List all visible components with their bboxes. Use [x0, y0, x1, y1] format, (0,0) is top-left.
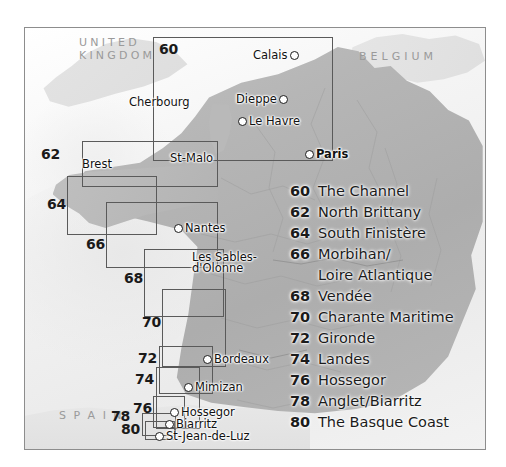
index-number-74: 74 [135, 372, 154, 386]
index-number-68: 68 [124, 271, 143, 285]
city-mimizan[interactable]: Mimizan [184, 379, 243, 395]
legend-number-76: 76 [290, 370, 318, 391]
index-number-62: 62 [41, 147, 60, 161]
city-dot-paris [305, 150, 314, 159]
city-label-calais: Calais [253, 48, 288, 62]
city-dot-calais [290, 51, 299, 60]
legend-row-72[interactable]: 72 Gironde [290, 328, 480, 349]
index-number-70: 70 [142, 315, 161, 329]
index-number-64: 64 [47, 197, 66, 211]
legend-label-70: Charante Maritime [318, 307, 454, 328]
legend-row-80[interactable]: 80 The Basque Coast [290, 412, 480, 433]
city-st-malo[interactable]: St-Malo [170, 150, 213, 166]
legend-number-74: 74 [290, 349, 318, 370]
index-number-80: 80 [121, 422, 140, 436]
city-dot-bordeaux [203, 355, 212, 364]
legend-number-78: 78 [290, 391, 318, 412]
city-label-bordeaux: Bordeaux [214, 352, 269, 366]
legend-row-70[interactable]: 70 Charante Maritime [290, 307, 480, 328]
legend-number-60: 60 [290, 181, 318, 202]
legend-row-68[interactable]: 68 Vendée [290, 286, 480, 307]
city-les-sables-dolonne[interactable]: Les Sables- d'Olonne [192, 252, 257, 274]
city-label-mimizan: Mimizan [195, 380, 243, 394]
legend-number-72: 72 [290, 328, 318, 349]
index-number-60: 60 [159, 42, 178, 56]
legend-label-72: Gironde [318, 328, 375, 349]
legend-row-64[interactable]: 64 South Finistère [290, 223, 480, 244]
city-label-nantes: Nantes [185, 221, 226, 235]
legend-row-62[interactable]: 62 North Brittany [290, 202, 480, 223]
legend-row-60[interactable]: 60 The Channel [290, 181, 480, 202]
city-label-les-sables-dolonne: Les Sables- d'Olonne [192, 252, 257, 274]
city-nantes[interactable]: Nantes [174, 220, 226, 236]
city-calais[interactable]: Calais [253, 47, 299, 63]
legend-row-66[interactable]: 66 Morbihan/ Loire Atlantique [290, 244, 480, 286]
city-dot-dieppe [279, 95, 288, 104]
legend-number-64: 64 [290, 223, 318, 244]
legend-number-66: 66 [290, 244, 318, 265]
legend-label-62: North Brittany [318, 202, 421, 223]
legend-row-74[interactable]: 74 Landes [290, 349, 480, 370]
city-st-jean-de-luz[interactable]: St-Jean-de-Luz [155, 428, 250, 444]
legend-label-78: Anglet/Biarritz [318, 391, 422, 412]
city-dieppe[interactable]: Dieppe [236, 91, 288, 107]
legend-number-80: 80 [290, 412, 318, 433]
index-number-76: 76 [133, 401, 152, 415]
city-dot-mimizan [184, 383, 193, 392]
country-label-belgium: BELGIUM [359, 50, 437, 63]
legend-row-78[interactable]: 78 Anglet/Biarritz [290, 391, 480, 412]
city-bordeaux[interactable]: Bordeaux [203, 351, 269, 367]
city-label-st-jean-de-luz: St-Jean-de-Luz [166, 429, 250, 443]
city-label-le-havre: Le Havre [249, 114, 300, 128]
legend-label-76: Hossegor [318, 370, 386, 391]
legend-label-60: The Channel [318, 181, 409, 202]
legend-label-74: Landes [318, 349, 370, 370]
chart-index-legend: 60 The Channel 62 North Brittany 64 Sout… [290, 181, 480, 433]
city-le-havre[interactable]: Le Havre [238, 113, 300, 129]
legend-label-80: The Basque Coast [318, 412, 449, 433]
legend-label-64: South Finistère [318, 223, 426, 244]
index-number-72: 72 [138, 351, 157, 365]
legend-number-70: 70 [290, 307, 318, 328]
city-label-st-malo: St-Malo [170, 151, 213, 165]
city-label-cherbourg: Cherbourg [129, 95, 190, 109]
city-cherbourg[interactable]: Cherbourg [129, 94, 190, 110]
country-label-united-kingdom: UNITED KINGDOM [79, 36, 155, 62]
map-frame: UNITED KINGDOM BELGIUM S P A I N 60 62 6… [24, 27, 486, 450]
city-brest[interactable]: Brest [82, 156, 112, 172]
city-dot-le-havre [238, 117, 247, 126]
city-label-paris: Paris [316, 147, 348, 161]
city-dot-st-jean-de-luz [155, 432, 164, 441]
legend-number-62: 62 [290, 202, 318, 223]
city-label-brest: Brest [82, 157, 112, 171]
legend-row-76[interactable]: 76 Hossegor [290, 370, 480, 391]
legend-number-68: 68 [290, 286, 318, 307]
legend-label-66: Morbihan/ Loire Atlantique [318, 244, 432, 286]
city-paris[interactable]: Paris [305, 146, 348, 162]
index-number-66: 66 [86, 237, 105, 251]
city-label-dieppe: Dieppe [236, 92, 277, 106]
legend-label-68: Vendée [318, 286, 372, 307]
city-dot-nantes [174, 224, 183, 233]
